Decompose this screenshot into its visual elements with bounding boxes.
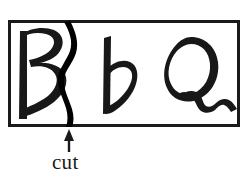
handwriting-figure-svg bbox=[0, 0, 251, 177]
figure-container: cut bbox=[0, 0, 251, 177]
figure-background bbox=[0, 0, 251, 177]
cut-label: cut bbox=[52, 150, 79, 174]
